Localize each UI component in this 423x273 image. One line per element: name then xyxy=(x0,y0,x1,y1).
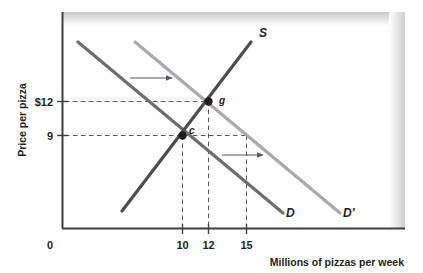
y-tick-label-9: 9 xyxy=(47,130,53,142)
y-axis-title: Price per pizza xyxy=(16,83,28,157)
point-c-marker xyxy=(178,131,186,139)
plot-right-shadow xyxy=(389,12,405,228)
point-c-label: c xyxy=(189,125,195,136)
demand-curve-label: D xyxy=(286,206,295,220)
supply-curve-label: S xyxy=(259,26,267,40)
x-tick-label-10: 10 xyxy=(176,239,188,251)
chart-canvas: $12 9 10 12 15 0 S D D' c g Price per pi… xyxy=(0,0,423,273)
origin-label: 0 xyxy=(47,239,53,251)
point-g-marker xyxy=(204,97,212,105)
plot-top-shadow xyxy=(62,12,405,26)
y-tick-label-12: $12 xyxy=(35,96,53,108)
point-g-label: g xyxy=(218,95,225,106)
supply-demand-figure: $12 9 10 12 15 0 S D D' c g Price per pi… xyxy=(0,0,423,273)
x-tick-label-12: 12 xyxy=(202,239,214,251)
x-tick-label-15: 15 xyxy=(240,239,252,251)
plot-panel xyxy=(62,12,405,228)
x-axis-title: Millions of pizzas per week xyxy=(270,256,404,268)
demand-shifted-curve-label: D' xyxy=(343,206,356,220)
plot-background xyxy=(62,12,405,228)
